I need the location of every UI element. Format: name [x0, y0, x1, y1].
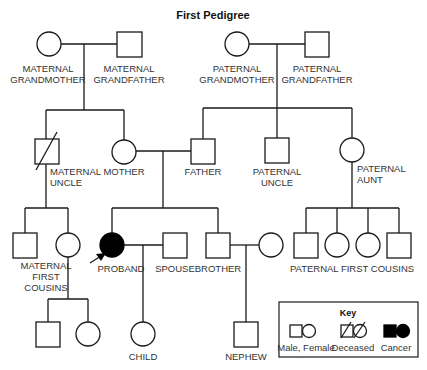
svg-text:GRANDFATHER: GRANDFATHER	[93, 74, 164, 85]
male-open-icon	[290, 325, 302, 337]
svg-text:GRANDMOTHER: GRANDMOTHER	[199, 74, 275, 85]
nephew-label: NEPHEW	[225, 351, 267, 362]
child-label: CHILD	[129, 351, 158, 362]
paternal-grandfather-label: PATERNAL	[293, 63, 342, 74]
brother-label: BROTHER	[195, 263, 242, 274]
paternal-aunt-label: PATERNAL	[357, 163, 406, 174]
nephew-symbol	[234, 322, 258, 347]
father-symbol	[191, 139, 215, 164]
maternal-grandparents: MATERNAL GRANDMOTHER MATERNAL GRANDFATHE…	[10, 32, 164, 140]
maternal-grandfather-symbol	[117, 32, 142, 57]
paternal-grandparents: PATERNAL GRANDMOTHER PATERNAL GRANDFATHE…	[199, 32, 352, 140]
child-symbol	[131, 322, 155, 346]
paternal-first-cousins-label: PATERNAL FIRST COUSINS	[290, 263, 414, 274]
paternal-aunt-symbol	[340, 138, 364, 162]
maternal-cousin-male-symbol	[13, 233, 37, 258]
svg-text:COUSINS: COUSINS	[24, 282, 67, 293]
paternal-cousin-male-symbol	[387, 233, 411, 258]
spouse-symbol	[163, 233, 187, 258]
paternal-grandfather-symbol	[305, 32, 329, 57]
female-cancer-icon	[397, 325, 410, 338]
paternal-uncle-label: PATERNAL	[253, 166, 302, 177]
maternal-grandmother-symbol	[37, 32, 61, 56]
diagram-title: First Pedigree	[176, 9, 249, 21]
paternal-cousin-female-symbol	[325, 233, 349, 257]
mother-symbol	[112, 140, 136, 164]
key-label-deceased: Deceased	[332, 342, 375, 353]
paternal-grandmother-label: PATERNAL	[213, 63, 262, 74]
svg-text:GRANDFATHER: GRANDFATHER	[281, 74, 352, 85]
brother-symbol	[206, 233, 230, 258]
svg-text:UNCLE: UNCLE	[261, 177, 293, 188]
father-label: FATHER	[185, 166, 222, 177]
paternal-grandmother-symbol	[225, 32, 249, 56]
proband-arrow-icon	[96, 253, 106, 261]
svg-text:GRANDMOTHER: GRANDMOTHER	[10, 74, 86, 85]
female-open-icon	[303, 325, 316, 338]
maternal-grandmother-label: MATERNAL	[22, 63, 73, 74]
generation-2: MATERNAL UNCLE MOTHER FATHER PATERNAL UN…	[35, 132, 406, 208]
svg-text:FIRST: FIRST	[32, 271, 60, 282]
maternal-uncle-label: MATERNAL	[50, 166, 101, 177]
cousin-child-male-symbol	[36, 322, 60, 347]
maternal-grandfather-label: MATERNAL	[103, 63, 154, 74]
svg-text:UNCLE: UNCLE	[50, 177, 82, 188]
key-label-male-female: Male, Female	[277, 342, 335, 353]
paternal-cousin-female-symbol	[356, 233, 380, 257]
key-title: Key	[340, 308, 357, 318]
maternal-first-cousins-label: MATERNAL	[20, 260, 71, 271]
legend-key: Key Male, Female Deceased Cancer	[277, 302, 418, 357]
proband-label: PROBAND	[98, 263, 145, 274]
mother-label: MOTHER	[103, 166, 144, 177]
maternal-uncle-symbol	[35, 139, 59, 164]
brother-wife-symbol	[259, 233, 283, 257]
spouse-label: SPOUSE	[155, 263, 195, 274]
paternal-cousin-male-symbol	[294, 233, 318, 258]
svg-text:AUNT: AUNT	[357, 174, 383, 185]
paternal-uncle-symbol	[265, 138, 289, 163]
generation-4: CHILD NEPHEW	[36, 299, 267, 362]
cousin-child-female-symbol	[76, 322, 100, 346]
pedigree-diagram: First Pedigree MATERNAL GRANDMOTHER MATE…	[0, 0, 427, 370]
key-label-cancer: Cancer	[381, 342, 412, 353]
male-cancer-icon	[384, 325, 396, 337]
maternal-cousin-female-symbol	[56, 233, 80, 257]
